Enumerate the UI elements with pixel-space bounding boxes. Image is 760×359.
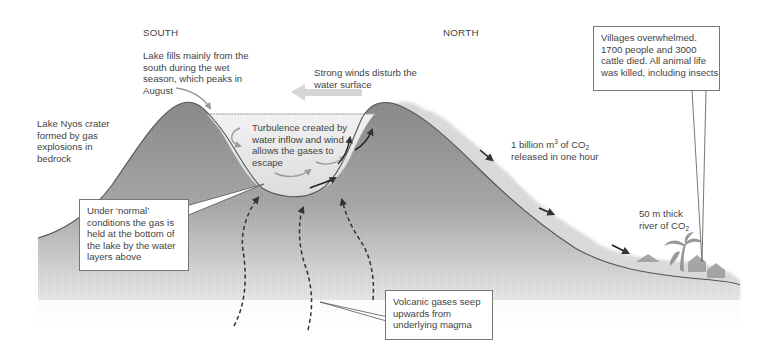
- winds-label: Strong winds disturb the water surface: [314, 67, 417, 90]
- co2-release-label: 1 billion m3 of CO2 released in one hour: [511, 139, 598, 162]
- co2-river-label: 50 m thick river of CO2: [639, 208, 689, 231]
- orientation-south: SOUTH: [143, 27, 178, 39]
- crater-label: Lake Nyos crater formed by gas explosion…: [37, 118, 110, 164]
- villages-callout: Villages overwhelmed. 1700 people and 30…: [593, 26, 720, 91]
- volcanic-gases-callout: Volcanic gases seep upwards from underly…: [385, 290, 493, 340]
- lake-fills-label: Lake fills mainly from the south during …: [143, 50, 249, 96]
- normal-conditions-callout: Under ‘normal’ conditions the gas is hel…: [79, 199, 189, 271]
- orientation-north: NORTH: [443, 27, 479, 39]
- turbulence-label: Turbulence created by water inflow and w…: [252, 122, 347, 168]
